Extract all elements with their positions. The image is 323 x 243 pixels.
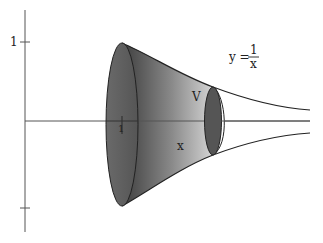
volume-label: V [191, 90, 201, 104]
x-tick-label: 1 [118, 123, 124, 134]
equation-denominator: x [250, 57, 257, 71]
diagram-canvas: 1 V x 1 y = 1 x [0, 0, 323, 243]
equation-numerator: 1 [250, 43, 258, 57]
cross-section-label: x [177, 139, 184, 153]
equation-lhs: y = [228, 50, 250, 64]
curve-equation: y = 1 x [228, 43, 259, 71]
y-tick-label: 1 [10, 35, 18, 49]
cross-section-disk [205, 87, 222, 155]
gabriels-horn-diagram: 1 V x 1 y = 1 x [0, 0, 323, 243]
